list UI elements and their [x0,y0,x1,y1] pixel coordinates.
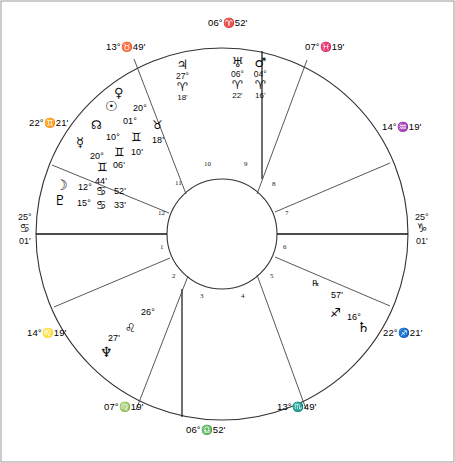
north-node-degree: 10° [106,133,120,142]
mars-minute: 16' [254,92,267,101]
neptune-glyph: ♆ [100,345,113,360]
astrology-chart-wheel: 06°♈52' 13°♉49' 22°♊21' 14°♌19' 07°♍19' … [0,0,455,463]
cusp-label-9: 07°♓19' [305,42,344,52]
cusp-label-5: 13°♏49' [277,402,316,412]
north-node-minute: 06' [113,161,125,170]
jupiter-minute: 18' [176,94,189,103]
saturn-retrograde-mark: ℞ [312,280,319,288]
house-number-4: 4 [241,292,245,300]
pluto-sign-glyph: ♋ [96,199,107,212]
page-border [1,1,454,462]
cusp-line-3 [136,276,188,410]
north-node-glyph: ☊ [91,119,102,132]
cusp-label-6: 22°♐21' [383,328,422,338]
uranus-minute: 22' [231,92,244,101]
moon-sign-glyph: ♋ [96,185,107,198]
cusp-line-8 [275,163,390,212]
cusp-label-2: 14°♌19' [27,328,66,338]
saturn-glyph: ♄ [357,320,370,335]
cusp-label-3: 07°♍19' [104,402,143,412]
moon-minute: 52' [114,187,126,196]
cusp-label-mc: 06°♈52' [208,18,247,28]
house-number-9: 9 [244,160,248,168]
venus-sign-glyph: ♉ [152,119,163,132]
house-number-5: 5 [270,272,274,280]
cusp-line-5 [257,275,306,409]
north-node-sign-glyph: ♊ [114,146,125,159]
sun-minute: 10' [131,148,143,157]
cusp-line-12 [52,165,169,213]
cusp-label-12: 22°♊21' [29,118,68,128]
cusp-label-8: 14°♒19' [382,122,421,132]
inner-circle [167,179,277,289]
saturn-sign-glyph: ♐ [330,307,341,320]
moon-degree: 12° [78,183,92,192]
sun-sign-glyph: ♊ [131,131,142,144]
saturn-minute: 57' [331,291,343,300]
planet-mars: ♂ 04° ♈ 16' [254,56,267,101]
neptune-minute: 27' [108,334,120,343]
mercury-sign-glyph: ♊ [97,161,108,174]
house-number-2: 2 [172,272,176,280]
house-number-6: 6 [283,243,287,251]
venus-degree: 20° [133,104,147,113]
jupiter-glyph: ♃ [176,58,189,72]
venus-minute: 18' [152,136,164,145]
planet-group-uranus-mars: ♅ 06° ♈ 22' ♂ 04° ♈ 16' [231,56,267,101]
mercury-glyph: ☿ [76,136,84,150]
house-number-3: 3 [200,292,204,300]
cusp-label-11: 13°♉49' [106,42,145,52]
sun-degree: 01° [123,117,137,126]
neptune-sign-glyph: ♌ [125,322,136,335]
house-number-11: 11 [175,179,182,187]
descendant-minute: 01' [415,236,429,246]
descendant-label: 25° ♑ 01' [415,212,429,246]
ascendant-minute: 01' [18,236,32,246]
uranus-glyph: ♅ [231,56,244,70]
pluto-minute: 33' [114,201,126,210]
house-number-7: 7 [285,209,289,217]
moon-glyph: ☽ [55,178,68,193]
cusp-label-ic: 06°♎52' [186,425,225,435]
pluto-glyph: ♇ [54,193,67,208]
wheel-graphic [0,0,455,463]
house-number-10: 10 [204,160,211,168]
neptune-degree-top: 26° [141,308,155,317]
house-number-1: 1 [160,243,164,251]
house-number-12: 12 [158,209,165,217]
ascendant-label: 25° ♋ 01' [18,212,32,246]
ascendant-sign-glyph: ♋ [18,222,32,236]
planet-uranus: ♅ 06° ♈ 22' [231,56,244,101]
descendant-sign-glyph: ♑ [415,222,429,236]
sun-glyph: ☉ [105,99,118,114]
pluto-degree: 15° [77,199,91,208]
mars-glyph: ♂ [254,56,267,70]
cusp-line-2 [54,258,170,307]
house-number-8: 8 [272,180,276,188]
planet-jupiter: ♃ 27° ♈ 18' [176,58,189,103]
